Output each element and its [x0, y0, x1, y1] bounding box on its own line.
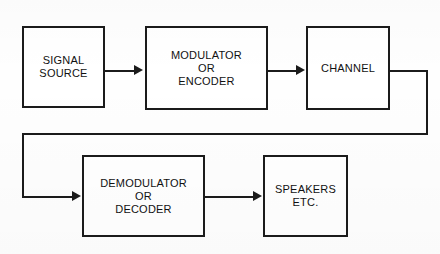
block-label-demodulator-decoder: DEMODULATOR OR DECODER: [100, 177, 187, 216]
wire-modulator-to-channel: [268, 70, 298, 72]
arrowhead-modulator-to-channel: [296, 65, 305, 75]
wire-channel-down-right-rail: [426, 70, 428, 135]
arrowhead-signal-source-to-modulator: [134, 65, 143, 75]
block-label-channel: CHANNEL: [321, 62, 375, 75]
block-label-modulator-encoder: MODULATOR OR ENCODER: [171, 49, 242, 88]
arrowhead-channel-to-demodulator: [72, 191, 81, 201]
wire-return-into-demodulator: [22, 196, 74, 198]
block-modulator-encoder[interactable]: MODULATOR OR ENCODER: [145, 26, 268, 110]
block-signal-source[interactable]: SIGNAL SOURCE: [22, 26, 105, 108]
block-label-speakers: SPEAKERS ETC.: [275, 183, 336, 209]
block-demodulator-decoder[interactable]: DEMODULATOR OR DECODER: [82, 155, 205, 237]
wire-signal-source-to-modulator: [105, 70, 137, 72]
arrowhead-demodulator-to-speakers: [253, 191, 262, 201]
wire-return-down-left-rail: [22, 133, 24, 197]
block-channel[interactable]: CHANNEL: [306, 26, 390, 110]
wire-demodulator-to-speakers: [205, 196, 255, 198]
wire-return-bus-horizontal: [22, 133, 428, 135]
block-diagram-canvas: SIGNAL SOURCE MODULATOR OR ENCODER CHANN…: [0, 0, 440, 254]
block-label-signal-source: SIGNAL SOURCE: [39, 54, 87, 80]
wire-channel-exit-right: [390, 70, 428, 72]
block-speakers[interactable]: SPEAKERS ETC.: [263, 155, 348, 237]
